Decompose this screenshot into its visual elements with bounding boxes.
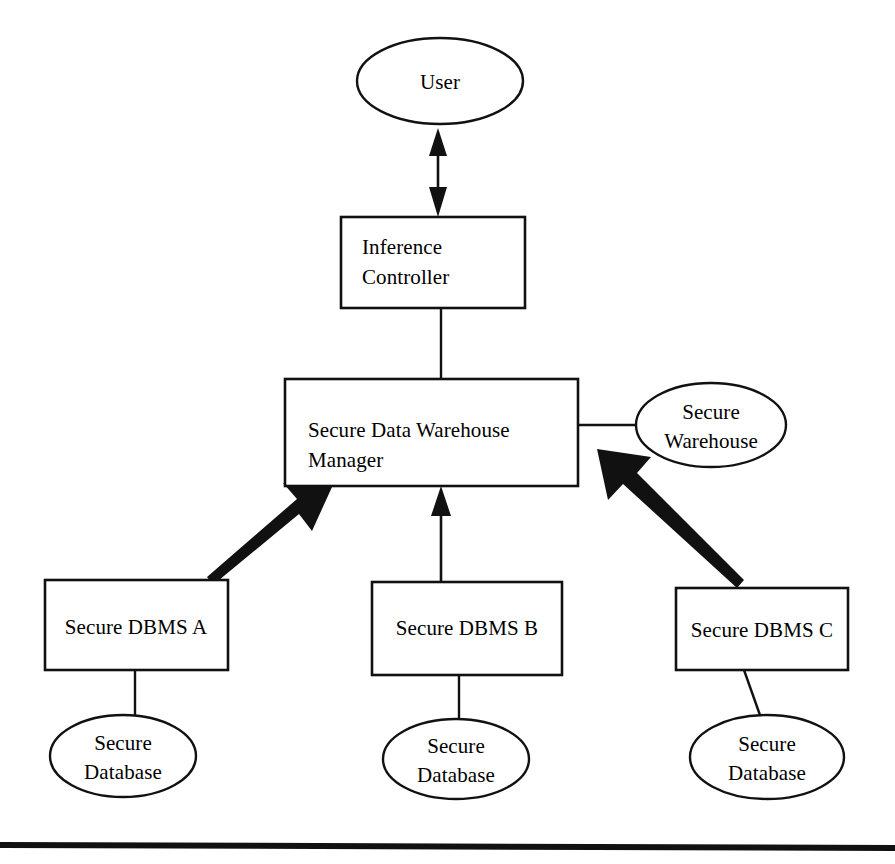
node-secure-data-warehouse-manager[interactable]: Secure Data Warehouse Manager: [285, 379, 578, 486]
arrow-head-up: [431, 486, 451, 516]
secure-database-c-ellipse[interactable]: [690, 715, 844, 799]
node-user[interactable]: User: [357, 38, 523, 124]
secure-data-warehouse-manager-label-line1: Secure Data Warehouse: [308, 418, 510, 442]
secure-database-c-label-line1: Secure: [738, 732, 796, 756]
node-secure-database-c[interactable]: Secure Database: [690, 715, 844, 799]
thick-arrow-c: [597, 449, 744, 588]
inference-controller-box[interactable]: [341, 217, 525, 308]
edge-dbms-c-to-database-c: [744, 670, 761, 718]
node-secure-dbms-b[interactable]: Secure DBMS B: [372, 582, 562, 675]
edge-dbms-a-to-manager: [207, 483, 332, 585]
secure-warehouse-label-line2: Warehouse: [664, 429, 758, 453]
node-secure-dbms-c[interactable]: Secure DBMS C: [676, 588, 848, 670]
secure-database-b-label-line2: Database: [417, 763, 495, 787]
user-label: User: [420, 70, 460, 94]
secure-database-b-label-line1: Secure: [427, 734, 485, 758]
inference-controller-label-line2: Controller: [362, 265, 449, 289]
edge-user-to-controller: [429, 128, 447, 217]
secure-database-a-label-line1: Secure: [94, 731, 152, 755]
secure-warehouse-ellipse[interactable]: [636, 383, 786, 467]
secure-data-warehouse-manager-label-line2: Manager: [308, 448, 383, 472]
secure-database-b-ellipse[interactable]: [383, 719, 529, 799]
secure-database-a-ellipse[interactable]: [50, 715, 196, 797]
secure-dbms-b-label: Secure DBMS B: [396, 616, 538, 640]
secure-warehouse-label-line1: Secure: [682, 400, 740, 424]
node-secure-dbms-a[interactable]: Secure DBMS A: [45, 580, 228, 670]
secure-database-a-label-line2: Database: [84, 760, 162, 784]
secure-dbms-a-label: Secure DBMS A: [65, 615, 208, 639]
node-inference-controller[interactable]: Inference Controller: [341, 217, 525, 308]
node-secure-database-b[interactable]: Secure Database: [383, 719, 529, 799]
arrow-head-down: [429, 187, 447, 217]
architecture-diagram: User Inference Controller Secure Data Wa…: [0, 0, 895, 864]
node-secure-warehouse[interactable]: Secure Warehouse: [636, 383, 786, 467]
diagram-canvas: User Inference Controller Secure Data Wa…: [0, 0, 895, 864]
thick-arrow-a: [207, 483, 332, 585]
arrow-head-up: [429, 128, 447, 156]
edge-dbms-b-to-manager: [431, 486, 451, 582]
footer-divider: [0, 842, 895, 851]
secure-dbms-c-label: Secure DBMS C: [691, 618, 833, 642]
edge-dbms-c-to-manager: [597, 449, 744, 588]
inference-controller-label-line1: Inference: [362, 235, 442, 259]
secure-database-c-label-line2: Database: [728, 761, 806, 785]
node-secure-database-a[interactable]: Secure Database: [50, 715, 196, 797]
